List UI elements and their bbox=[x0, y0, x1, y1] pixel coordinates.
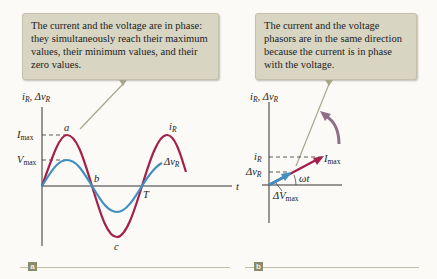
panel-a-graph bbox=[42, 107, 232, 246]
rotation-arrow bbox=[326, 116, 339, 144]
point-a-label: a bbox=[64, 122, 69, 133]
omega-t-label: ωt bbox=[299, 173, 310, 184]
callout-a-pointer bbox=[80, 80, 127, 129]
imax-label: Imax bbox=[16, 129, 34, 142]
dvmax-phasor-label: ΔVmax bbox=[272, 190, 299, 203]
point-b-label: b bbox=[94, 173, 99, 184]
phasor-iR-label: iR bbox=[254, 151, 262, 164]
panel-a-y-axis-label: iR, ΔvR bbox=[22, 91, 51, 104]
diagram-canvas: iR, ΔvR t Imax Vmax a b c T iR ΔvR iR, Δ… bbox=[0, 0, 437, 279]
panel-b-y-axis-label: iR, ΔvR bbox=[250, 91, 279, 104]
panel-a-x-axis-label: t bbox=[236, 181, 240, 192]
dvR-curve-label: ΔvR bbox=[163, 156, 180, 169]
phasor-dvR-label: ΔvR bbox=[245, 166, 262, 179]
panel-a-tag: a bbox=[28, 262, 37, 271]
vmax-label: Vmax bbox=[17, 154, 37, 167]
panel-b-divider bbox=[245, 267, 419, 268]
panel-b-tag: b bbox=[254, 262, 263, 271]
imax-phasor-label: Imax bbox=[323, 153, 341, 166]
point-T-label: T bbox=[143, 189, 150, 200]
iR-curve-label: iR bbox=[169, 121, 177, 134]
panel-a-divider bbox=[20, 267, 230, 268]
point-c-label: c bbox=[114, 241, 119, 252]
